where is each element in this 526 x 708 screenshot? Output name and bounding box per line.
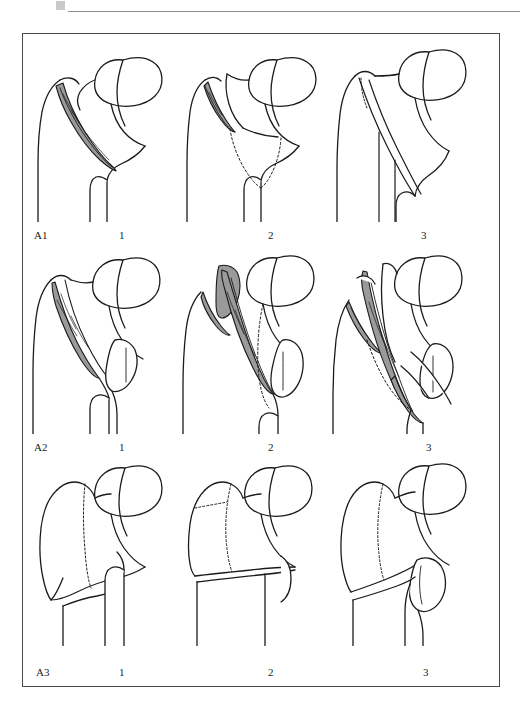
figure-row-a2: A2 1 2 3 <box>23 248 501 460</box>
column-label-a2-3: 3 <box>426 441 432 453</box>
row-label-a3: A3 <box>36 666 49 678</box>
figure-a1-2 <box>183 36 335 222</box>
column-label-a2-1: 1 <box>119 441 125 453</box>
header-square-mark <box>56 1 65 10</box>
column-label-a3-1: 1 <box>119 666 125 678</box>
figure-a3-3 <box>335 460 487 646</box>
column-label-a1-1: 1 <box>119 229 125 241</box>
figure-a2-3 <box>329 248 481 434</box>
column-label-a1-3: 3 <box>421 229 427 241</box>
column-label-a3-3: 3 <box>423 666 429 678</box>
figure-a2-1 <box>27 248 179 434</box>
page-header <box>0 0 526 24</box>
column-label-a1-2: 2 <box>268 229 274 241</box>
figure-a3-2 <box>181 460 333 646</box>
figure-a3-1 <box>29 460 181 646</box>
figure-a1-1 <box>27 36 179 222</box>
figure-row-a3: A3 1 2 3 <box>23 460 501 686</box>
figure-frame: A1 1 2 3 <box>22 33 500 687</box>
figure-a1-3 <box>333 36 485 222</box>
column-label-a2-2: 2 <box>268 441 274 453</box>
figure-row-a1: A1 1 2 3 <box>23 36 501 248</box>
row-label-a2: A2 <box>34 441 47 453</box>
figure-a2-2 <box>179 248 331 434</box>
column-label-a3-2: 2 <box>268 666 274 678</box>
header-divider <box>68 11 520 12</box>
row-label-a1: A1 <box>34 229 47 241</box>
